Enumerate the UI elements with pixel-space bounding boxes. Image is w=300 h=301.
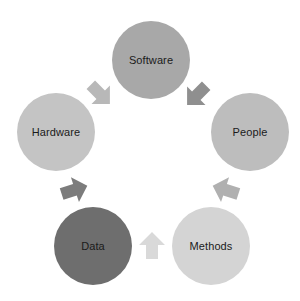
arrow-glyph-icon <box>82 76 119 113</box>
arrow-glyph-icon <box>178 77 215 114</box>
arrow-glyph-icon <box>139 232 165 259</box>
node-label-hardware: Hardware <box>32 126 81 138</box>
node-people[interactable]: People <box>211 93 289 171</box>
node-data[interactable]: Data <box>54 207 132 285</box>
node-label-data: Data <box>81 240 105 252</box>
arrow-glyph-icon <box>58 173 92 206</box>
node-label-software: Software <box>129 54 173 66</box>
node-hardware[interactable]: Hardware <box>17 93 95 171</box>
arrow-software-to-people <box>178 77 215 114</box>
cycle-diagram-canvas: SoftwarePeopleMethodsDataHardware <box>0 0 300 301</box>
node-label-methods: Methods <box>190 240 233 252</box>
cycle-diagram: SoftwarePeopleMethodsDataHardware <box>0 0 300 301</box>
arrow-hardware-to-software <box>82 76 119 113</box>
arrow-methods-to-data <box>139 232 165 259</box>
arrow-data-to-hardware <box>58 173 92 206</box>
node-software[interactable]: Software <box>112 21 190 99</box>
node-methods[interactable]: Methods <box>172 207 250 285</box>
arrow-people-to-methods <box>209 173 243 206</box>
arrow-glyph-icon <box>209 173 243 206</box>
node-label-people: People <box>233 126 268 138</box>
